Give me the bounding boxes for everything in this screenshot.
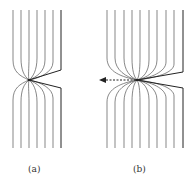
panel-a-tip: [28, 79, 31, 82]
panel-b-notch: [137, 10, 183, 148]
caption-a: (a): [28, 164, 40, 174]
panel-b-tip: [136, 79, 139, 82]
caption-b: (b): [133, 164, 146, 174]
figure: [0, 0, 194, 185]
